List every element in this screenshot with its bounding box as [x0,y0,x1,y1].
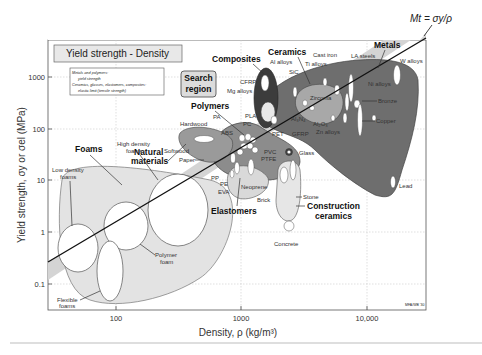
label-pla: PLA [245,113,256,119]
label-zn-alloys: Zn alloys [316,129,340,135]
brick-bubble [280,167,288,183]
label-ptfe: PTFE [261,156,276,162]
label-high-density-2: foams [126,148,142,154]
note-line-4: elastic limit (tensile strength) [78,89,127,93]
concrete-bubble [284,221,294,231]
credit: MFA/WB '30 [405,303,424,307]
label-lead: Lead [399,183,412,189]
label-flexible-2: foams [59,303,75,309]
label-ni-alloys: Ni alloys [368,81,391,87]
label-mg-alloys: Mg alloys [227,88,252,94]
label-hardwood: Hardwood [180,121,207,127]
label-ti-alloys: Ti alloys [305,61,327,67]
label-concrete: Concrete [274,241,299,247]
label-la-steels: LA steels [351,53,375,59]
construction-ceramics-envelope [276,161,301,221]
label-sic: SiC [289,69,299,75]
la-steels-bubble [349,74,354,102]
label-construction-2: ceramics [315,211,352,221]
label-low-density-1: Low density [52,167,84,173]
search-region-label-1: Search [184,73,212,83]
x-tick-1000: 1000 [233,314,250,323]
label-copper: Copper [376,118,396,124]
label-low-density-2: foams [60,174,76,180]
label-pc: PC [243,121,252,127]
label-metals: Metals [374,40,401,50]
chart-title: Yield strength - Density [66,48,169,59]
label-brick: Brick [257,197,271,203]
low-density-foams-bubble [58,224,98,272]
label-w-alloys: W alloys [400,58,423,64]
x-tick-100: 100 [110,314,123,323]
label-paper: Paper [179,157,195,163]
label-polymer-foam-2: foam [160,259,173,265]
flexible-foams-bubble [97,241,123,301]
lead-bubble [391,176,396,188]
label-pa: PA [213,114,221,120]
label-pvc: PVC [264,149,277,155]
x-axis-title: Density, ρ (kg/m³) [199,327,277,338]
y-tick-10: 10 [37,176,45,185]
label-pe: PE [220,181,228,187]
label-bronze: Bronze [378,98,398,104]
label-al-alloys: Al alloys [270,59,292,65]
label-natural-2: materials [131,156,169,166]
softwood-bubble [194,136,214,143]
x-tick-10000: 10,000 [356,314,379,323]
y-axis-title: Yield strength, σy or σel (MPa) [16,107,27,243]
label-polymers: Polymers [191,101,230,111]
label-stone: Stone [303,194,319,200]
label-softwood: Softwood [164,148,189,154]
label-cfrp: CFRP [240,79,256,85]
guide-label: Mt = σy/ρ [410,13,452,24]
label-neoprene: Neoprene [241,184,268,190]
stone-bubble [290,160,296,180]
label-polymer-foam-1: Polymer [155,252,177,258]
label-cast-iron: Cast iron [313,52,337,58]
label-foams: Foams [75,144,103,154]
zn-alloys-bubble [331,115,335,121]
label-pp: PP [211,175,219,181]
label-high-density-1: High density [117,141,150,147]
label-gfrp: GFRP [292,131,309,137]
y-tick-1: 1 [41,228,45,237]
label-al2o3: Al₂O₃ [313,121,328,127]
label-ceramics: Ceramics [268,47,307,57]
y-tick-1000: 1000 [28,73,45,82]
label-elastomers: Elastomers [211,206,257,216]
label-al3n4: Al₃N₄ [291,116,306,122]
label-construction-1: Construction [307,201,360,211]
note-line-3: Ceramics, glasses, elastomers, composite… [72,83,146,87]
w-alloys-bubble [394,65,401,85]
note-line-1: Metals and polymers: [72,71,108,75]
copper-bubble [358,104,363,136]
label-eva: EVA [218,189,230,195]
label-composites: Composites [212,54,261,64]
label-glass: Glass [299,150,314,156]
cfrp-bubble [261,75,269,91]
y-tick-0.1: 0.1 [35,280,45,289]
ashby-chart: Mt = σy/ρ Yield strength - Density Metal… [0,0,482,355]
y-tick-100: 100 [32,125,45,134]
label-pet: PET [272,131,284,137]
note-line-2: yield strength [77,77,101,81]
search-region-label-2: region [186,84,212,94]
label-abs: ABS [221,130,233,136]
label-zirconia: Zirconia [310,95,332,101]
